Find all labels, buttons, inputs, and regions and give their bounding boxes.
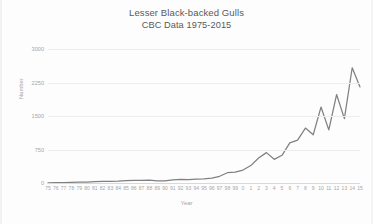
x-tick-label: 9 — [312, 185, 315, 191]
x-tick-label: 94 — [193, 185, 199, 191]
y-tick-label: 0 — [4, 180, 44, 186]
x-tick-label: 2 — [257, 185, 260, 191]
series-polyline — [48, 68, 360, 183]
gridline — [48, 116, 360, 117]
x-tick-label: 5 — [281, 185, 284, 191]
x-tick-label: 0 — [242, 185, 245, 191]
gridline — [48, 150, 360, 151]
chart-subtitle: CBC Data 1975-2015 — [2, 19, 371, 32]
y-tick-label: 1500 — [4, 113, 44, 119]
x-tick-label: 14 — [349, 185, 355, 191]
x-tick-label: 93 — [186, 185, 192, 191]
x-tick-label: 76 — [53, 185, 59, 191]
x-tick-label: 1 — [249, 185, 252, 191]
x-tick-label: 86 — [131, 185, 137, 191]
x-tick-label: 91 — [170, 185, 176, 191]
x-tick-label: 15 — [357, 185, 363, 191]
x-tick-label: 11 — [326, 185, 331, 191]
x-tick-label: 92 — [178, 185, 184, 191]
x-tick-label: 83 — [108, 185, 114, 191]
x-tick-label: 77 — [61, 185, 67, 191]
x-axis-line — [48, 183, 360, 184]
x-tick-label: 85 — [123, 185, 129, 191]
x-tick-label: 81 — [92, 185, 98, 191]
x-tick-label: 75 — [45, 185, 51, 191]
x-axis-ticks: 7576777879808182838485868788899091929394… — [48, 185, 360, 195]
x-tick-label: 82 — [100, 185, 106, 191]
chart-title: Lesser Black-backed Gulls CBC Data 1975-… — [2, 6, 371, 32]
x-tick-label: 87 — [139, 185, 145, 191]
x-tick-label: 80 — [84, 185, 90, 191]
x-tick-label: 88 — [147, 185, 153, 191]
gridline — [48, 83, 360, 84]
x-tick-label: 98 — [225, 185, 231, 191]
x-tick-label: 90 — [162, 185, 168, 191]
x-tick-label: 3 — [265, 185, 268, 191]
gridline — [48, 49, 360, 50]
x-axis-title: Year — [2, 200, 371, 206]
y-tick-label: 3000 — [4, 46, 44, 52]
y-tick-label: 750 — [4, 147, 44, 153]
y-tick-label: 2250 — [4, 80, 44, 86]
x-tick-label: 96 — [209, 185, 215, 191]
x-tick-label: 10 — [318, 185, 324, 191]
x-tick-label: 99 — [232, 185, 238, 191]
x-tick-label: 89 — [154, 185, 160, 191]
x-tick-label: 13 — [342, 185, 348, 191]
x-tick-label: 12 — [334, 185, 340, 191]
x-tick-label: 8 — [304, 185, 307, 191]
chart-container: Lesser Black-backed Gulls CBC Data 1975-… — [0, 0, 373, 224]
x-tick-label: 7 — [296, 185, 299, 191]
x-tick-label: 78 — [69, 185, 75, 191]
plot-area: 0750150022503000 — [48, 49, 360, 183]
x-tick-label: 79 — [76, 185, 82, 191]
x-tick-label: 84 — [115, 185, 121, 191]
x-tick-label: 97 — [217, 185, 223, 191]
x-tick-label: 4 — [273, 185, 276, 191]
x-tick-label: 95 — [201, 185, 207, 191]
x-tick-label: 6 — [288, 185, 291, 191]
chart-title-line1: Lesser Black-backed Gulls — [2, 6, 371, 19]
